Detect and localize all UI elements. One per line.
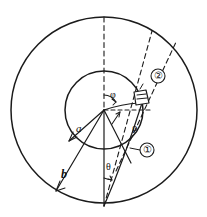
tool-block <box>134 90 149 105</box>
wedge-upper-curve <box>104 103 139 110</box>
angle-theta-arrowhead <box>108 176 112 180</box>
tool-block-stem <box>140 84 143 89</box>
diagram-svg <box>0 0 207 217</box>
label-angle-phi: φ <box>110 90 116 100</box>
label-callout-two: ② <box>154 71 163 81</box>
label-radius-a: a <box>76 123 82 134</box>
label-angle-theta: θ <box>106 162 111 172</box>
label-callout-one: ① <box>143 145 152 155</box>
callout-one-leader <box>130 148 140 150</box>
figure-canvas: a b ρ φ θ ① ② <box>0 0 207 217</box>
radius-a-line <box>69 110 104 141</box>
curve-one <box>104 100 143 206</box>
label-radius-b: b <box>61 168 67 180</box>
label-radius-rho: ρ <box>132 122 138 133</box>
